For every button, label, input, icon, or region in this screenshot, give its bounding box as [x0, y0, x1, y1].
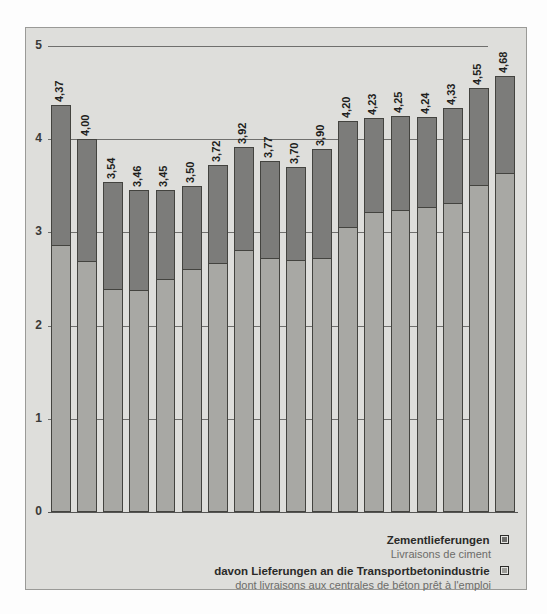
legend-label-fr: dont livraisons aux centrales de béton p… [79, 579, 509, 591]
bar-group[interactable]: 3,6320114,68 [495, 76, 515, 512]
bar-value-label-total: 3,77 [262, 136, 274, 157]
bar-value-label-total: 4,37 [53, 80, 65, 101]
bar-value-label-total: 3,50 [184, 161, 196, 182]
bar-value-label-total: 3,54 [105, 158, 117, 179]
legend-swatch-icon [500, 535, 509, 544]
bar-group[interactable]: 2,4919983,45 [156, 190, 176, 512]
bar-segment-zementlieferungen[interactable]: 2,491998 [156, 190, 176, 512]
bar-segment-zementlieferungen[interactable]: 2,601999 [182, 186, 202, 512]
bar-segment-transportbeton[interactable] [209, 263, 227, 511]
bar-segment-transportbeton[interactable] [392, 210, 410, 511]
bar-group[interactable]: 2,8020013,92 [234, 147, 254, 512]
bar-segment-transportbeton[interactable] [313, 258, 331, 511]
bar-segment-zementlieferungen[interactable]: 3,502010 [469, 88, 489, 512]
bar-group[interactable]: 3,2120064,23 [364, 118, 384, 512]
bar-segment-transportbeton[interactable] [444, 203, 462, 511]
bar-value-label-total: 3,46 [131, 165, 143, 186]
bar-segment-transportbeton[interactable] [339, 227, 357, 511]
bar-group[interactable]: 3,0520054,20 [338, 121, 358, 512]
bar-segment-zementlieferungen[interactable]: 3,312009 [443, 108, 463, 512]
bar-segment-transportbeton[interactable] [261, 258, 279, 511]
legend-label-de: Zementlieferungen [387, 534, 490, 546]
legend-label-fr: Livraisons de ciment [79, 548, 509, 560]
bar-segment-transportbeton[interactable] [104, 289, 122, 511]
bar-segment-zementlieferungen[interactable]: 2,381996 [103, 182, 123, 512]
bar-value-label-total: 4,68 [497, 51, 509, 72]
bar-group[interactable]: 2,7120043,90 [312, 149, 332, 512]
bar-group[interactable]: 2,8519944,37 [51, 105, 71, 512]
bar-group[interactable]: 3,3120094,33 [443, 108, 463, 512]
bar-group[interactable]: 2,3719973,46 [129, 190, 149, 512]
bar-value-label-total: 4,24 [419, 92, 431, 113]
legend-item-transportbeton[interactable]: davon Lieferungen an die Transportbetoni… [79, 561, 509, 591]
bar-segment-zementlieferungen[interactable]: 3,632011 [495, 76, 515, 512]
bar-value-label-total: 3,92 [236, 122, 248, 143]
bar-group[interactable]: 3,2620084,24 [417, 117, 437, 512]
bar-group[interactable]: 2,6920033,70 [286, 167, 306, 512]
legend-swatch-icon [500, 566, 509, 575]
bar-group[interactable]: 3,2320074,25 [391, 116, 411, 512]
bar-value-label-total: 4,33 [445, 84, 457, 105]
bar-segment-zementlieferungen[interactable]: 2,712004 [312, 149, 332, 512]
bar-value-label-total: 3,72 [210, 141, 222, 162]
bar-value-label-total: 3,90 [314, 124, 326, 145]
bar-segment-zementlieferungen[interactable]: 3,212006 [364, 118, 384, 512]
bar-value-label-total: 4,55 [471, 64, 483, 85]
bar-segment-transportbeton[interactable] [287, 260, 305, 511]
bar-value-label-total: 4,25 [392, 91, 404, 112]
bar-segment-transportbeton[interactable] [418, 207, 436, 511]
bar-segment-zementlieferungen[interactable]: 2,681995 [77, 139, 97, 512]
bar-segment-transportbeton[interactable] [470, 185, 488, 511]
bar-group[interactable]: 2,6819954,00 [77, 139, 97, 512]
bar-segment-zementlieferungen[interactable]: 2,662000 [208, 165, 228, 512]
bar-group[interactable]: 2,6620003,72 [208, 165, 228, 512]
bar-segment-zementlieferungen[interactable]: 2,851994 [51, 105, 71, 512]
bar-segment-zementlieferungen[interactable]: 2,712002 [260, 161, 280, 512]
bar-group[interactable]: 2,3819963,54 [103, 182, 123, 512]
bar-segment-zementlieferungen[interactable]: 2,371997 [129, 190, 149, 512]
bar-group[interactable]: 2,6019993,50 [182, 186, 202, 512]
bar-segment-zementlieferungen[interactable]: 2,692003 [286, 167, 306, 512]
bar-group[interactable]: 3,5020104,55 [469, 88, 489, 512]
chart-legend: Zementlieferungen Livraisons de ciment d… [79, 530, 509, 592]
bar-segment-transportbeton[interactable] [183, 269, 201, 511]
bar-segment-transportbeton[interactable] [78, 261, 96, 511]
bar-segment-zementlieferungen[interactable]: 3,232007 [391, 116, 411, 512]
bar-group[interactable]: 2,7120023,77 [260, 161, 280, 512]
chart-figure: 012345 2,8519944,372,6819954,002,3819963… [0, 0, 547, 614]
bar-segment-transportbeton[interactable] [157, 279, 175, 511]
legend-label-de: davon Lieferungen an die Transportbetoni… [214, 565, 489, 577]
legend-item-zementlieferungen[interactable]: Zementlieferungen Livraisons de ciment [79, 530, 509, 560]
bar-value-label-total: 4,20 [340, 96, 352, 117]
bar-segment-zementlieferungen[interactable]: 2,802001 [234, 147, 254, 512]
bar-segment-transportbeton[interactable] [496, 173, 514, 511]
bar-segment-zementlieferungen[interactable]: 3,262008 [417, 117, 437, 512]
bar-segment-zementlieferungen[interactable]: 3,052005 [338, 121, 358, 512]
bar-value-label-total: 3,70 [288, 143, 300, 164]
bar-segment-transportbeton[interactable] [365, 212, 383, 511]
plot-area: 2,8519944,372,6819954,002,3819963,542,37… [0, 0, 547, 614]
bar-segment-transportbeton[interactable] [52, 245, 70, 511]
bar-segment-transportbeton[interactable] [130, 290, 148, 511]
bar-value-label-total: 3,45 [157, 166, 169, 187]
bar-segment-transportbeton[interactable] [235, 250, 253, 511]
bar-value-label-total: 4,23 [366, 93, 378, 114]
bar-value-label-total: 4,00 [79, 115, 91, 136]
